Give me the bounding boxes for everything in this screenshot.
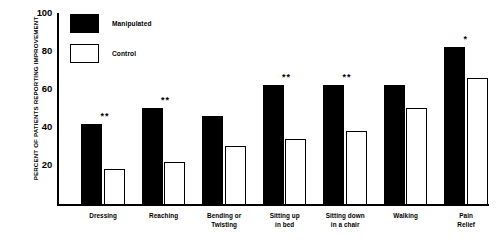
- bar-control: [406, 108, 427, 203]
- legend-swatch-control-icon: [70, 44, 99, 63]
- category-label-line: Relief: [430, 221, 497, 230]
- bar-chart: PERCENT OF PATIENTS REPORTING IMPROVEMEN…: [0, 0, 497, 248]
- legend-label-manipulated: Manipulated: [112, 20, 152, 27]
- x-axis-baseline: [57, 204, 489, 206]
- bar-control: [285, 139, 306, 204]
- y-tick-100: 100: [26, 7, 52, 18]
- category-label: PainRelief: [430, 212, 497, 229]
- significance-marker: **: [342, 73, 351, 82]
- bar-manipulated: [444, 47, 465, 203]
- y-tick-20: 20: [26, 159, 52, 170]
- chart-legend: Manipulated Control: [70, 14, 152, 74]
- bar-manipulated: [323, 85, 344, 203]
- bar-group: **: [323, 13, 367, 204]
- y-tick-40: 40: [26, 121, 52, 132]
- bar-manipulated: [384, 85, 405, 203]
- bar-group: [202, 13, 246, 204]
- y-tick-60: 60: [26, 83, 52, 94]
- bar-manipulated: [263, 85, 284, 203]
- legend-swatch-manipulated-icon: [70, 14, 99, 33]
- significance-marker: **: [161, 96, 170, 105]
- bar-control: [346, 131, 367, 203]
- bar-control: [104, 169, 125, 203]
- bar-group: [384, 13, 428, 204]
- significance-marker: **: [100, 112, 109, 121]
- significance-marker: **: [282, 73, 291, 82]
- bar-control: [225, 146, 246, 203]
- bar-manipulated: [81, 124, 102, 204]
- legend-item-control: Control: [70, 44, 152, 63]
- bar-manipulated: [202, 116, 223, 204]
- significance-marker: *: [463, 35, 468, 44]
- category-label-line: Pain: [430, 212, 497, 221]
- legend-label-control: Control: [112, 50, 136, 57]
- legend-item-manipulated: Manipulated: [70, 14, 152, 33]
- bar-manipulated: [142, 108, 163, 203]
- category-label-line: in a chair: [309, 221, 381, 230]
- bar-control: [467, 78, 488, 204]
- bar-group: *: [444, 13, 488, 204]
- bar-control: [164, 162, 185, 204]
- bar-group: **: [263, 13, 307, 204]
- y-tick-80: 80: [26, 45, 52, 56]
